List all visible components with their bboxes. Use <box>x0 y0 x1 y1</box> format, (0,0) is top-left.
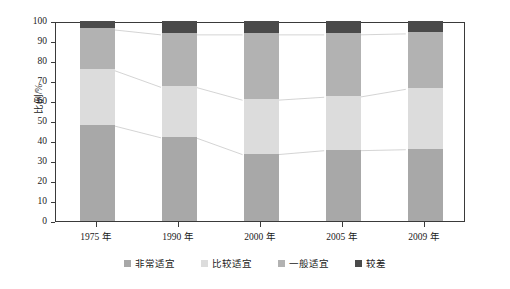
legend-item-3[interactable]: 一般适宜 <box>278 256 329 270</box>
legend-label: 较差 <box>366 256 386 270</box>
x-tick-mark <box>178 222 179 227</box>
legend-label: 一般适宜 <box>289 256 329 270</box>
bar-segment <box>326 21 361 33</box>
y-tick-label: 70 <box>21 77 47 87</box>
bar-5 <box>408 21 443 221</box>
x-tick-mark <box>260 222 261 227</box>
bar-segment <box>80 125 115 221</box>
connector-line <box>114 30 161 35</box>
y-tick-label: 40 <box>21 137 47 147</box>
y-tick-label: 50 <box>21 117 47 127</box>
connector-line <box>359 150 406 151</box>
bar-segment <box>162 86 197 137</box>
bar-3 <box>244 21 279 221</box>
y-tick-label: 80 <box>21 57 47 67</box>
bar-segment <box>244 154 279 221</box>
y-tick-label: 30 <box>21 157 47 167</box>
bar-segment <box>244 99 279 154</box>
legend-swatch-icon <box>355 260 362 267</box>
y-tick-label: 0 <box>21 217 47 227</box>
bar-segment <box>244 33 279 99</box>
x-tick-label: 2000 年 <box>220 233 300 243</box>
x-tick-mark <box>424 222 425 227</box>
bar-segment <box>162 137 197 221</box>
bar-segment <box>408 21 443 32</box>
legend-swatch-icon <box>278 260 285 267</box>
y-tick-label: 90 <box>21 37 47 47</box>
bar-segment <box>326 150 361 221</box>
x-tick-label: 1975 年 <box>56 233 136 243</box>
connector-line <box>114 71 161 88</box>
x-tick-label: 1990 年 <box>138 233 218 243</box>
y-tick-label: 20 <box>21 177 47 187</box>
connector-line <box>277 151 324 155</box>
connector-line <box>359 34 406 35</box>
bar-segment <box>162 21 197 33</box>
x-tick-mark <box>96 222 97 227</box>
stacked-bar-chart: 比例/% 0102030405060708090100 1975 年1990 年… <box>0 0 510 289</box>
bar-segment <box>244 21 279 33</box>
legend-label: 非常适宜 <box>135 256 175 270</box>
plot-inner <box>56 23 464 221</box>
y-tick-label: 100 <box>21 17 47 27</box>
connector-line <box>359 89 406 97</box>
y-tick-mark <box>51 222 55 223</box>
y-tick-label: 60 <box>21 97 47 107</box>
connector-line <box>114 126 161 138</box>
bar-segment <box>326 33 361 96</box>
bar-segment <box>80 21 115 28</box>
bar-segment <box>408 88 443 149</box>
legend-label: 比较适宜 <box>212 256 252 270</box>
legend-item-1[interactable]: 非常适宜 <box>124 256 175 270</box>
bar-segment <box>162 33 197 86</box>
legend-item-4[interactable]: 较差 <box>355 256 386 270</box>
bar-1 <box>80 21 115 221</box>
connector-line <box>277 97 324 100</box>
legend: 非常适宜比较适宜一般适宜较差 <box>0 256 510 270</box>
x-tick-mark <box>342 222 343 227</box>
bar-segment <box>80 28 115 69</box>
bar-segment <box>408 149 443 221</box>
plot-area <box>55 22 465 222</box>
bar-segment <box>80 69 115 125</box>
bar-segment <box>408 32 443 88</box>
legend-swatch-icon <box>124 260 131 267</box>
connector-line <box>196 87 243 100</box>
bar-segment <box>326 96 361 150</box>
legend-swatch-icon <box>201 260 208 267</box>
bar-4 <box>326 21 361 221</box>
x-tick-label: 2009 年 <box>384 233 464 243</box>
legend-item-2[interactable]: 比较适宜 <box>201 256 252 270</box>
x-tick-label: 2005 年 <box>302 233 382 243</box>
y-tick-label: 10 <box>21 197 47 207</box>
connector-line <box>196 138 243 155</box>
bar-2 <box>162 21 197 221</box>
